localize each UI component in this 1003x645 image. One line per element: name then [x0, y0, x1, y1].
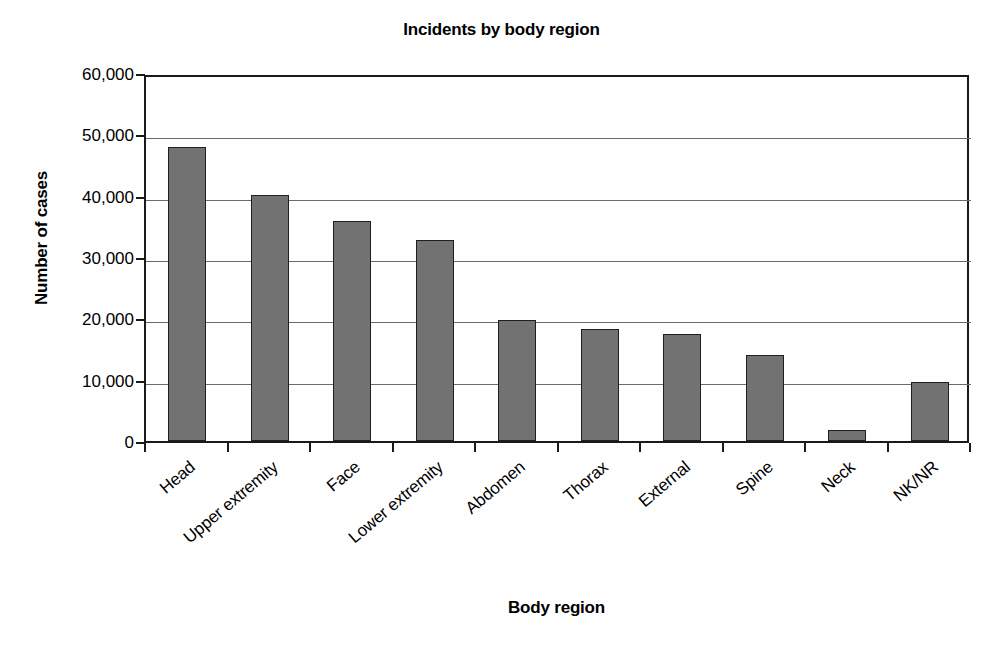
x-axis-tick-mark — [887, 443, 889, 452]
x-axis-tick-mark — [392, 443, 394, 452]
bar-chart: Incidents by body region Number of cases… — [0, 0, 1003, 645]
y-axis-tick-label: 60,000 — [30, 66, 134, 83]
x-axis-tick-mark — [557, 443, 559, 452]
bar — [333, 221, 371, 441]
y-axis-tick-label: 0 — [30, 434, 134, 451]
y-axis-tick-label: 30,000 — [30, 250, 134, 267]
y-axis-tick-label: 10,000 — [30, 373, 134, 390]
bar — [581, 329, 619, 441]
y-axis-tick-label: 20,000 — [30, 311, 134, 328]
x-axis-tick-mark — [639, 443, 641, 452]
bar — [416, 240, 454, 441]
bar — [168, 147, 206, 441]
x-axis-tick-mark — [144, 443, 146, 452]
bar — [663, 334, 701, 441]
bar — [828, 430, 866, 441]
x-axis-tick-mark — [969, 443, 971, 452]
x-axis-tick-mark — [804, 443, 806, 452]
bar — [911, 382, 949, 441]
x-axis-tick-mark — [722, 443, 724, 452]
x-axis-tick-mark — [474, 443, 476, 452]
y-axis-tick-label: 50,000 — [30, 127, 134, 144]
bar — [498, 320, 536, 441]
bar — [251, 195, 289, 441]
plot-area — [144, 75, 969, 443]
bar — [746, 355, 784, 441]
chart-title: Incidents by body region — [0, 20, 1003, 40]
x-axis-tick-mark — [309, 443, 311, 452]
y-axis-tick-label: 40,000 — [30, 189, 134, 206]
gridline — [146, 138, 971, 139]
x-axis-tick-mark — [227, 443, 229, 452]
x-axis-title: Body region — [144, 598, 969, 618]
